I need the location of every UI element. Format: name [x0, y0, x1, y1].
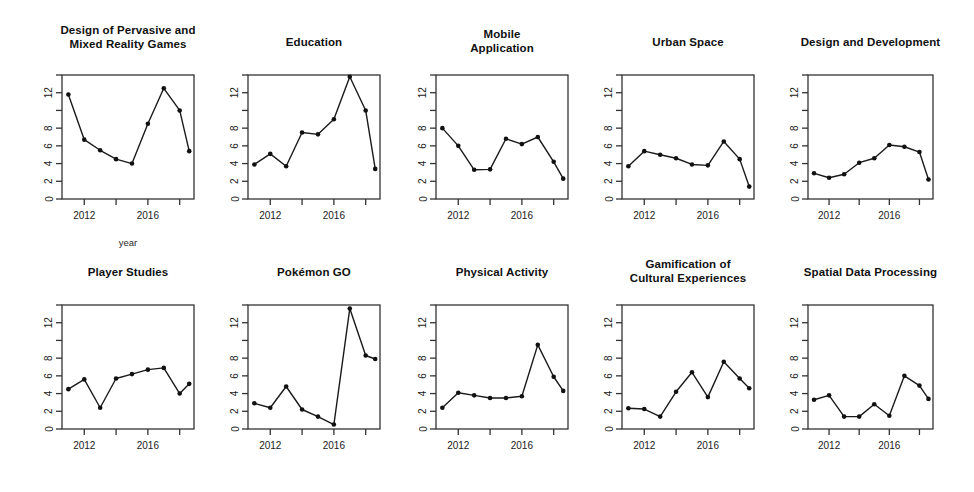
x-tick-label: 2016 — [878, 440, 901, 451]
y-tick-label: 12 — [418, 317, 429, 329]
data-line — [68, 88, 189, 163]
panel-title: Design of Pervasive and Mixed Reality Ga… — [22, 24, 234, 51]
panel-title: Gamification of Cultural Experiences — [582, 258, 794, 285]
data-line — [442, 128, 563, 178]
data-point — [146, 121, 151, 126]
y-tick-label: 8 — [790, 125, 801, 131]
x-tick-label: 2016 — [697, 210, 720, 221]
y-tick-label: 12 — [418, 87, 429, 99]
data-point — [146, 367, 151, 372]
data-point — [252, 162, 257, 167]
data-line — [814, 145, 928, 180]
data-point — [658, 414, 663, 419]
panel-title: Player Studies — [22, 266, 234, 280]
plot-area: 024681220122016 — [0, 0, 974, 492]
data-point — [706, 163, 711, 168]
data-point — [316, 132, 321, 137]
y-tick-label: 12 — [44, 87, 55, 99]
plot-box — [62, 305, 194, 429]
data-point — [842, 172, 847, 177]
y-tick-label: 0 — [418, 196, 429, 202]
data-point — [737, 157, 742, 162]
x-tick-label: 2016 — [323, 440, 346, 451]
x-tick-label: 2012 — [259, 210, 282, 221]
data-point — [857, 414, 862, 419]
panel-title: Physical Activity — [396, 266, 608, 280]
plot-box — [248, 75, 380, 199]
y-tick-label: 4 — [230, 390, 241, 396]
y-tick-label: 8 — [418, 125, 429, 131]
plot-box — [622, 75, 754, 199]
x-tick-label: 2012 — [633, 210, 656, 221]
data-point — [917, 150, 922, 155]
data-point — [721, 359, 726, 364]
data-point — [456, 390, 461, 395]
data-point — [161, 366, 166, 371]
plot-area: 024681220122016 — [0, 0, 974, 492]
y-tick-label: 8 — [790, 355, 801, 361]
plot-box — [248, 305, 380, 429]
plot-box — [622, 305, 754, 429]
y-tick-label: 0 — [44, 196, 55, 202]
plot-box — [808, 75, 933, 199]
chart-panel-5: Design and Development024681220122016 — [0, 0, 974, 492]
data-point — [130, 161, 135, 166]
data-point — [887, 413, 892, 418]
y-tick-label: 6 — [44, 143, 55, 149]
plot-area: 024681220122016 — [0, 0, 974, 492]
y-tick-label: 2 — [230, 408, 241, 414]
data-point — [690, 162, 695, 167]
panel-title: Mobile Application — [396, 28, 608, 55]
x-tick-label: 2012 — [818, 210, 841, 221]
data-point — [300, 130, 305, 135]
multi-panel-line-chart-figure: Design of Pervasive and Mixed Reality Ga… — [0, 0, 974, 492]
data-point — [561, 176, 566, 181]
data-point — [161, 86, 166, 91]
plot-box — [436, 75, 568, 199]
data-point — [842, 414, 847, 419]
data-point — [917, 383, 922, 388]
plot-area: 024681220122016 — [0, 0, 974, 492]
x-tick-label: 2012 — [259, 440, 282, 451]
y-tick-label: 0 — [230, 196, 241, 202]
y-tick-label: 0 — [790, 426, 801, 432]
data-point — [626, 406, 631, 411]
chart-panel-10: Spatial Data Processing024681220122016 — [0, 0, 974, 492]
data-point — [114, 376, 119, 381]
chart-panel-9: Gamification of Cultural Experiences0246… — [0, 0, 974, 492]
data-point — [827, 175, 832, 180]
data-line — [254, 77, 375, 169]
data-point — [66, 92, 71, 97]
data-point — [332, 117, 337, 122]
data-point — [82, 377, 87, 382]
data-point — [551, 374, 556, 379]
plot-area: 024681220122016 — [0, 0, 974, 492]
data-point — [706, 395, 711, 400]
data-point — [690, 370, 695, 375]
data-point — [626, 164, 631, 169]
data-point — [658, 152, 663, 157]
x-tick-label: 2012 — [447, 210, 470, 221]
y-tick-label: 2 — [44, 408, 55, 414]
data-point — [488, 167, 493, 172]
data-point — [747, 386, 752, 391]
data-point — [187, 149, 192, 154]
data-line — [628, 362, 749, 417]
data-point — [187, 382, 192, 387]
data-point — [98, 405, 103, 410]
plot-area: 024681220122016 — [0, 0, 974, 492]
data-point — [721, 139, 726, 144]
data-point — [926, 397, 931, 402]
panel-title: Pokémon GO — [208, 266, 420, 280]
data-line — [68, 368, 189, 408]
x-tick-label: 2012 — [633, 440, 656, 451]
y-tick-label: 4 — [604, 390, 615, 396]
y-tick-label: 4 — [604, 160, 615, 166]
data-point — [535, 343, 540, 348]
y-tick-label: 2 — [418, 178, 429, 184]
x-tick-label: 2016 — [323, 210, 346, 221]
data-line — [628, 141, 749, 186]
data-point — [488, 396, 493, 401]
data-point — [130, 372, 135, 377]
x-tick-label: 2012 — [73, 440, 96, 451]
